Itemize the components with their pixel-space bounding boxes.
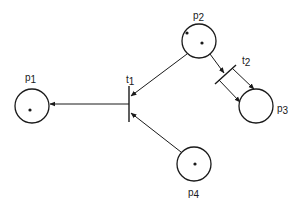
transition-t2-label: t2	[242, 55, 251, 68]
place-p3: p3	[239, 89, 289, 123]
petri-net-diagram: p1 p2 p3 p4 t1 t2	[0, 0, 298, 205]
token	[185, 31, 188, 34]
token	[28, 108, 31, 111]
place-p2-label: p2	[193, 10, 205, 23]
place-p1: p1	[15, 72, 49, 123]
arc-p4-t1	[131, 113, 181, 152]
arc-p2-t2	[210, 54, 224, 73]
arc-t2-p3-b	[219, 80, 240, 102]
place-p1-label: p1	[25, 72, 37, 85]
place-p2: p2	[182, 10, 216, 58]
place-p3-label: p3	[277, 103, 289, 116]
token	[193, 162, 196, 165]
token	[200, 41, 203, 44]
arc-t2-p3-a	[232, 68, 254, 89]
arc-p2-t1	[131, 54, 187, 96]
place-p4-label: p4	[188, 187, 200, 200]
place-p4: p4	[177, 147, 211, 200]
transition-t1-label: t1	[126, 74, 135, 87]
